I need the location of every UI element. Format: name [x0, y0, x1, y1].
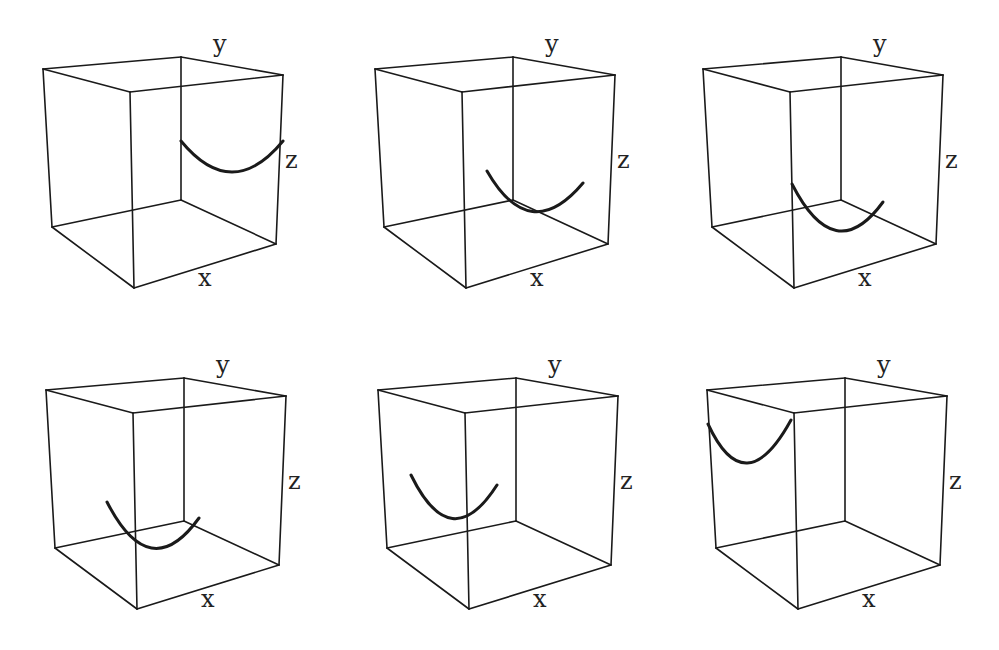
parabola-curve — [181, 141, 283, 172]
cube-wireframe — [703, 30, 958, 292]
cube-panel-6 — [707, 351, 962, 613]
figure-canvas: y z x — [0, 0, 999, 650]
parabola-curve — [487, 171, 583, 212]
cube-wireframe — [375, 30, 630, 292]
cube-panel-2 — [375, 30, 630, 292]
cube-panel-3 — [703, 30, 958, 292]
cube-panel-4 — [46, 351, 301, 613]
cube-wireframe — [43, 30, 298, 292]
cube-panel-5 — [378, 351, 633, 613]
cube-wireframe — [707, 351, 962, 613]
parabola-curve — [708, 420, 791, 463]
cube-wireframe — [46, 351, 301, 613]
parabola-curve — [107, 502, 199, 548]
parabola-curve — [411, 475, 497, 519]
parabola-curve — [792, 184, 883, 231]
cube-panel-1 — [43, 30, 298, 292]
